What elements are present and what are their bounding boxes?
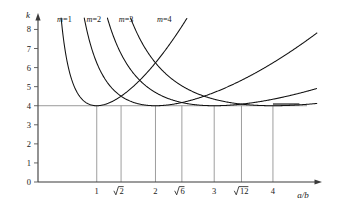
- y-tick-label: 7: [27, 44, 31, 54]
- gridlines-group: [97, 106, 273, 182]
- y-tick-label: 6: [27, 63, 31, 73]
- x-tick-label: 4: [271, 186, 276, 196]
- buckling-chart-figure: 012345678 12342612 m=1m=2m=3m=4 k a/b: [0, 0, 339, 214]
- y-tick-label: 8: [27, 24, 31, 34]
- buckling-curve-m2: [84, 18, 317, 106]
- radicand-text: 2: [120, 186, 124, 196]
- x-tick-label: 2: [153, 186, 157, 196]
- y-tick-label: 4: [27, 101, 32, 111]
- series-label: m=2: [86, 15, 101, 24]
- y-tick-label: 5: [27, 82, 31, 92]
- x-tick-label-radical: 6: [175, 186, 185, 196]
- series-label: m=1: [57, 15, 72, 24]
- y-axis-arrow: [35, 13, 40, 21]
- y-tick-label: 1: [27, 158, 31, 168]
- series-label: m=4: [157, 15, 172, 24]
- x-ticks-group: 12342612: [95, 186, 276, 196]
- axes-group: [35, 13, 322, 185]
- buckling-curve-m4: [131, 18, 317, 106]
- plot-canvas: 012345678 12342612 m=1m=2m=3m=4 k a/b: [0, 0, 339, 214]
- y-axis-title: k: [26, 10, 31, 20]
- series-labels-group: m=1m=2m=3m=4: [57, 15, 171, 24]
- y-ticks-group: 012345678: [27, 24, 38, 187]
- radicand-text: 6: [180, 186, 184, 196]
- y-tick-label: 2: [27, 139, 31, 149]
- y-tick-label: 0: [27, 177, 31, 187]
- radicand-text: 12: [240, 186, 249, 196]
- x-axis-arrow: [315, 179, 323, 184]
- x-axis-title: a/b: [297, 190, 309, 200]
- buckling-curve-m3: [107, 18, 316, 106]
- series-label: m=3: [119, 15, 134, 24]
- x-tick-label-radical: 2: [114, 186, 124, 196]
- curves-group: [61, 18, 317, 106]
- buckling-curve-m1: [61, 18, 187, 106]
- x-tick-label-radical: 12: [234, 186, 248, 196]
- y-tick-label: 3: [27, 120, 31, 130]
- x-tick-label: 3: [212, 186, 216, 196]
- x-tick-label: 1: [95, 186, 99, 196]
